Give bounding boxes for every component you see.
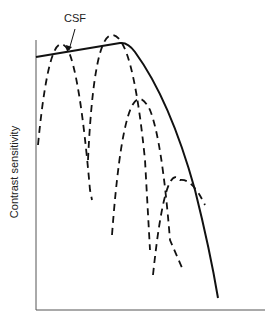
channel-1-curve bbox=[38, 44, 92, 200]
y-axis-label: Contrast sensitivity bbox=[8, 126, 20, 218]
channel-4-curve bbox=[153, 177, 205, 275]
chart-canvas bbox=[0, 0, 273, 327]
channel-2-curve bbox=[88, 35, 150, 250]
csf-label: CSF bbox=[64, 12, 86, 24]
csf-curve bbox=[36, 43, 218, 298]
